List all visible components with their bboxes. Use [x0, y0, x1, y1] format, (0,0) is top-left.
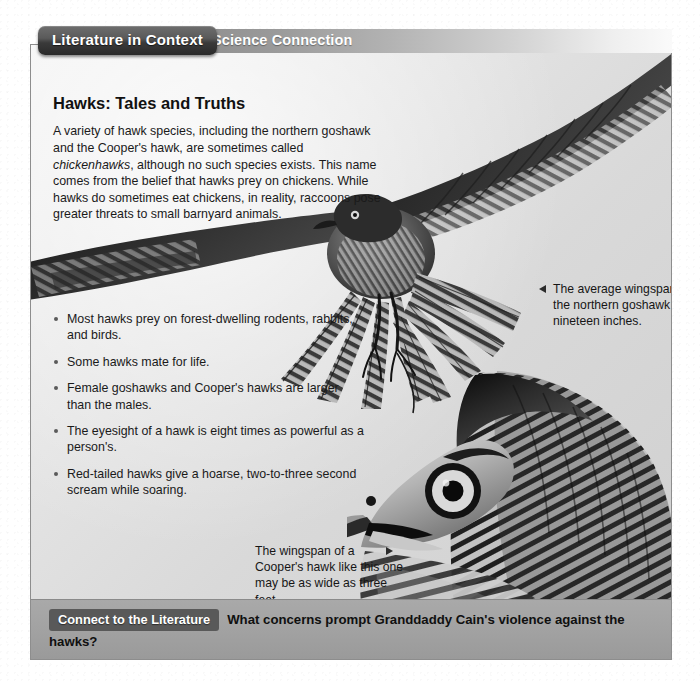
tab-literature-in-context-label: Literature in Context: [52, 31, 203, 48]
science-connection-label: Science Connection: [212, 32, 352, 48]
intro-paragraph: A variety of hawk species, including the…: [53, 123, 383, 223]
hawk-facts-list: Most hawks prey on forest-dwelling roden…: [53, 311, 365, 509]
science-connection-bar: Science Connection: [188, 29, 672, 53]
goshawk-caption: The average wingspan of the northern gos…: [553, 281, 672, 330]
header-row: Science Connection Literature in Context: [38, 26, 678, 56]
connect-footer: Connect to the LiteratureWhat concerns p…: [31, 599, 672, 659]
connect-to-literature-chip: Connect to the Literature: [49, 609, 219, 631]
triangle-left-icon: [539, 285, 546, 293]
footer-inner: Connect to the LiteratureWhat concerns p…: [49, 609, 649, 652]
page-title: Hawks: Tales and Truths: [53, 94, 245, 113]
coopers-caption-text: The wingspan of a Cooper's hawk like thi…: [255, 544, 403, 607]
feature-box: Hawks: Tales and Truths A variety of haw…: [30, 44, 672, 660]
triangle-right-icon: [386, 547, 393, 555]
list-item: Most hawks prey on forest-dwelling roden…: [53, 311, 365, 344]
list-item: Female goshawks and Cooper's hawks are l…: [53, 380, 365, 413]
list-item: Some hawks mate for life.: [53, 354, 365, 370]
tab-literature-in-context[interactable]: Literature in Context: [38, 26, 217, 55]
intro-before: A variety of hawk species, including the…: [53, 124, 371, 155]
list-item: Red-tailed hawks give a hoarse, two-to-t…: [53, 466, 365, 499]
list-item: The eyesight of a hawk is eight times as…: [53, 423, 365, 456]
goshawk-caption-text: The average wingspan of the northern gos…: [553, 282, 672, 328]
textbook-page: Hawks: Tales and Truths A variety of haw…: [0, 0, 700, 682]
intro-italic-term: chickenhawks: [53, 158, 130, 172]
